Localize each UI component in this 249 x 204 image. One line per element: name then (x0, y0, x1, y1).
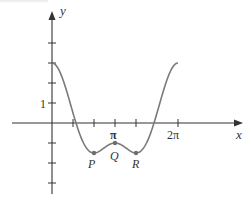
y-axis-label: y (60, 4, 66, 17)
x-tick-label-pi: π (110, 129, 117, 141)
x-axis-label: x (236, 128, 242, 141)
x-tick-label-2pi: 2π (167, 129, 179, 141)
point-label-r: R (132, 158, 139, 170)
point-label-p: P (88, 158, 95, 170)
y-tick-label-1: 1 (40, 98, 46, 110)
function-graph (0, 0, 249, 204)
axes (12, 11, 243, 194)
point-label-q: Q (110, 150, 119, 162)
point-p (92, 151, 96, 155)
point-r (134, 151, 138, 155)
